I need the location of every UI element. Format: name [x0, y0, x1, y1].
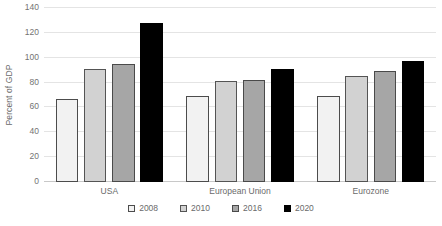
chart-legend: 2008201020162020 — [0, 203, 442, 213]
legend-item-2020[interactable]: 2020 — [284, 203, 314, 213]
legend-item-2010[interactable]: 2010 — [180, 203, 210, 213]
bar-groups — [44, 8, 436, 182]
bar-group — [175, 8, 306, 182]
legend-label: 2016 — [243, 203, 262, 213]
bars-row — [56, 8, 163, 182]
bar-usa-2008[interactable] — [56, 99, 79, 182]
y-tick-label: 120 — [25, 27, 39, 37]
bar-group — [305, 8, 436, 182]
x-tick-label: European Union — [175, 186, 306, 196]
y-tick-label: 40 — [30, 126, 39, 136]
y-tick-label: 80 — [30, 77, 39, 87]
bar-chart: Percent of GDP 020406080100120140 USAEur… — [0, 0, 442, 226]
y-axis-title-label: Percent of GDP — [4, 65, 14, 126]
bars-row — [317, 8, 424, 182]
legend-label: 2008 — [139, 203, 158, 213]
bar-usa-2016[interactable] — [112, 64, 135, 182]
bar-group — [44, 8, 175, 182]
plot-frame: 020406080100120140 — [44, 8, 436, 182]
legend-label: 2020 — [295, 203, 314, 213]
bar-eurozone-2016[interactable] — [374, 71, 397, 182]
bar-european-union-2016[interactable] — [243, 80, 266, 182]
x-tick-label: Eurozone — [305, 186, 436, 196]
bar-usa-2010[interactable] — [84, 69, 107, 182]
y-tick-label: 0 — [34, 176, 39, 186]
plot-area: 020406080100120140 — [44, 8, 436, 182]
legend-swatch-icon — [128, 205, 135, 212]
bar-european-union-2010[interactable] — [215, 81, 238, 182]
legend-item-2016[interactable]: 2016 — [232, 203, 262, 213]
y-tick-label: 140 — [25, 2, 39, 12]
legend-item-2008[interactable]: 2008 — [128, 203, 158, 213]
x-axis-labels: USAEuropean UnionEurozone — [44, 186, 436, 196]
legend-label: 2010 — [191, 203, 210, 213]
legend-swatch-icon — [232, 205, 239, 212]
y-tick-label: 60 — [30, 101, 39, 111]
bar-european-union-2008[interactable] — [186, 96, 209, 182]
bar-european-union-2020[interactable] — [271, 69, 294, 182]
bar-eurozone-2010[interactable] — [345, 76, 368, 182]
bar-usa-2020[interactable] — [140, 23, 163, 182]
bar-eurozone-2020[interactable] — [402, 61, 425, 182]
bar-eurozone-2008[interactable] — [317, 96, 340, 182]
x-tick-label: USA — [44, 186, 175, 196]
y-tick-label: 20 — [30, 151, 39, 161]
legend-swatch-icon — [180, 205, 187, 212]
y-axis-title: Percent of GDP — [0, 0, 18, 190]
legend-swatch-icon — [284, 205, 291, 212]
y-tick-label: 100 — [25, 52, 39, 62]
bars-row — [186, 8, 293, 182]
